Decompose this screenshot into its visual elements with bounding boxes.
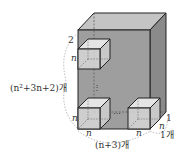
depth-gap-label: 1 (166, 113, 172, 123)
cube-side-label-top: n (71, 53, 77, 63)
cube-width-label-left: n (86, 128, 92, 138)
small-cube-bottom-right (128, 98, 160, 129)
height-count-label: (n²+3n+2)개 (10, 83, 67, 93)
horizontal-ellipsis: ⋯ (113, 109, 121, 118)
cube-width-label-right: n (136, 128, 142, 138)
vertical-ellipsis: ⋮ (93, 83, 101, 92)
top-gap-label: 2 (68, 35, 74, 45)
small-cube-bottom-left (78, 98, 110, 129)
width-count-label: (n+3)개 (95, 140, 129, 150)
cuboid-cube-diagram: ⋯ ⋮ 2 n (n²+3n+2)개 n n n (n+3)개 1 n 1개 (0, 0, 183, 160)
depth-count-label: 1개 (160, 130, 174, 140)
cube-side-label-bottom: n (72, 113, 78, 123)
small-cube-top-left (78, 39, 110, 69)
